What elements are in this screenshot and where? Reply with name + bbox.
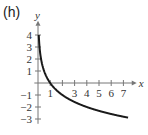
y-axis-label: y [34,9,40,21]
x-tick-label: 5 [96,87,102,99]
log-graph: xy134567−3−2−11234 [0,0,148,135]
x-tick-label: 4 [84,87,90,99]
y-tick-label: 1 [27,65,33,77]
y-tick-label: 4 [27,29,33,41]
y-tick-label: −1 [20,89,32,101]
y-tick-label: 3 [27,41,33,53]
y-axis-arrow-icon [36,21,41,26]
x-tick-label: 3 [72,87,78,99]
x-tick-label: 6 [108,87,114,99]
y-tick-label: −3 [20,113,32,125]
y-tick-label: 2 [27,53,33,65]
curve-series [39,35,128,118]
x-axis-arrow-icon [132,81,137,86]
x-tick-label: 7 [121,87,127,99]
y-tick-label: −2 [20,101,32,113]
x-axis-label: x [138,77,144,89]
x-tick-label: 1 [47,87,53,99]
